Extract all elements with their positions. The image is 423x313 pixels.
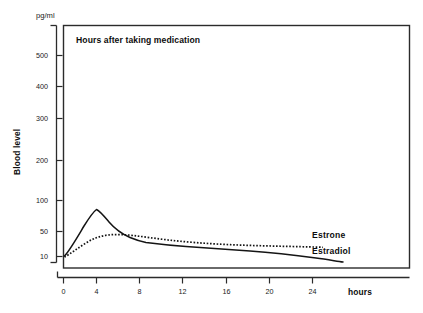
x-tick-label-0: 0: [62, 287, 66, 296]
y-tick-label-300: 300: [36, 114, 48, 123]
series-label-estradiol: Estradiol: [312, 246, 351, 256]
y-axis-title: Blood level: [12, 129, 22, 175]
y-tick-label-400: 400: [36, 82, 48, 91]
x-tick-label-20: 20: [266, 287, 274, 296]
y-tick-label-100: 100: [36, 196, 48, 205]
chart-title: Hours after taking medication: [76, 35, 200, 45]
y-axis-unit-label: pg/ml: [36, 11, 55, 20]
y-tick-label-10: 10: [40, 252, 48, 261]
x-tick-label-16: 16: [223, 287, 231, 296]
x-axis-title: hours: [348, 287, 372, 297]
x-tick-label-24: 24: [309, 287, 317, 296]
y-tick-label-500: 500: [36, 51, 48, 60]
blood-level-line-chart: 500 400 300 200 100 50 10 pg/ml Blood le…: [0, 0, 423, 313]
x-tick-label-8: 8: [138, 287, 142, 296]
plot-area-frame: [64, 26, 410, 269]
series-label-estrone: Estrone: [312, 230, 345, 240]
y-tick-label-200: 200: [36, 156, 48, 165]
x-tick-label-12: 12: [179, 287, 187, 296]
y-tick-label-50: 50: [40, 227, 48, 236]
chart-container: 500 400 300 200 100 50 10 pg/ml Blood le…: [0, 0, 423, 313]
x-tick-label-4: 4: [95, 287, 99, 296]
